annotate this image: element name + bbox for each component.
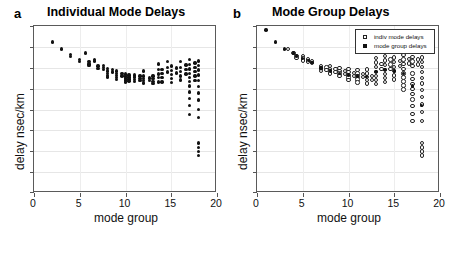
data-point-indiv-mode-delay: [374, 60, 378, 64]
data-point-indiv-mode-delay: [410, 112, 414, 116]
panel-title-b: Mode Group Delays: [272, 6, 389, 19]
data-point-mode-group-delay: [84, 51, 87, 54]
data-point-indiv-mode-delay: [420, 81, 424, 85]
data-point-indiv-mode-delay: [286, 47, 290, 51]
data-point-mode-group-delay: [188, 80, 191, 83]
x-axis-tick-label: 15: [155, 198, 185, 209]
data-point-mode-group-delay: [179, 74, 182, 77]
data-point-mode-group-delay: [188, 84, 191, 87]
data-point-mode-group-delay: [264, 28, 267, 31]
x-axis-tick-label: 0: [241, 198, 271, 209]
data-point-indiv-mode-delay: [420, 55, 424, 59]
data-point-indiv-mode-delay: [410, 59, 414, 63]
panel-letter-b: b: [233, 7, 241, 20]
data-point-mode-group-delay: [142, 69, 145, 72]
x-axis-tick-label: 5: [64, 198, 94, 209]
data-point-mode-group-delay: [133, 80, 136, 83]
data-point-mode-group-delay: [197, 154, 200, 157]
data-point-indiv-mode-delay: [374, 82, 378, 86]
y-axis-tick: [30, 130, 34, 131]
data-point-mode-group-delay: [197, 91, 200, 94]
panel-mode-group-delays: b Mode Group Delays indiv mode delays mo…: [228, 0, 455, 257]
data-point-indiv-mode-delay: [401, 62, 405, 66]
data-point-indiv-mode-delay: [410, 97, 414, 101]
y-axis-tick: [30, 151, 34, 152]
y-axis-title-b: delay nsec/km: [237, 93, 249, 170]
data-point-mode-group-delay: [338, 72, 341, 75]
gridline-horizontal: [257, 151, 438, 152]
data-point-mode-group-delay: [188, 97, 191, 100]
data-point-mode-group-delay: [170, 73, 173, 76]
data-point-mode-group-delay: [69, 55, 72, 58]
data-point-mode-group-delay: [175, 71, 178, 74]
data-point-mode-group-delay: [115, 78, 118, 81]
y-axis-tick: [30, 68, 34, 69]
data-point-indiv-mode-delay: [420, 95, 424, 99]
filled-circle-icon: [359, 44, 371, 47]
y-axis-tick: [253, 130, 257, 131]
y-axis-tick: [253, 172, 257, 173]
x-axis-tick-label: 0: [18, 198, 48, 209]
data-point-mode-group-delay: [197, 79, 200, 82]
figure-container: a Individual Mode Delays mode group dela…: [0, 0, 455, 257]
data-point-indiv-mode-delay: [346, 78, 350, 82]
x-axis-tick-label: 20: [201, 198, 231, 209]
data-point-mode-group-delay: [96, 67, 99, 70]
x-axis-tick-label: 10: [333, 198, 363, 209]
data-point-mode-group-delay: [93, 59, 96, 62]
data-point-mode-group-delay: [274, 40, 277, 43]
data-point-mode-group-delay: [157, 62, 160, 65]
gridline-horizontal: [257, 172, 438, 173]
data-point-mode-group-delay: [60, 47, 63, 50]
data-point-indiv-mode-delay: [392, 55, 396, 59]
y-axis-tick: [253, 110, 257, 111]
data-point-indiv-mode-delay: [420, 153, 424, 157]
data-point-mode-group-delay: [188, 113, 191, 116]
data-point-mode-group-delay: [197, 108, 200, 111]
data-point-mode-group-delay: [170, 69, 173, 72]
data-point-indiv-mode-delay: [410, 104, 414, 108]
x-axis-title-a: mode group: [26, 212, 226, 224]
data-point-indiv-mode-delay: [410, 77, 414, 81]
x-axis-tick-label: 5: [287, 198, 317, 209]
data-point-indiv-mode-delay: [401, 57, 405, 61]
data-point-mode-group-delay: [383, 68, 386, 71]
data-point-indiv-mode-delay: [401, 87, 405, 91]
legend-item-mode-group-delays: mode group delays: [359, 42, 431, 50]
data-point-indiv-mode-delay: [420, 60, 424, 64]
open-circle-icon: [359, 35, 371, 39]
legend-item-indiv-mode-delays: indiv mode delays: [359, 33, 431, 41]
y-axis-tick: [253, 89, 257, 90]
data-point-mode-group-delay: [188, 72, 191, 75]
data-point-mode-group-delay: [188, 63, 191, 66]
data-point-mode-group-delay: [160, 68, 163, 71]
data-point-mode-group-delay: [188, 67, 191, 70]
data-point-mode-group-delay: [197, 59, 200, 62]
data-point-mode-group-delay: [160, 80, 163, 83]
data-point-mode-group-delay: [283, 47, 286, 50]
data-point-indiv-mode-delay: [420, 88, 424, 92]
data-point-mode-group-delay: [160, 72, 163, 75]
data-point-mode-group-delay: [127, 79, 130, 82]
data-point-mode-group-delay: [142, 81, 145, 84]
data-point-mode-group-delay: [170, 77, 173, 80]
legend-label-indiv-mode-delays: indiv mode delays: [374, 34, 424, 40]
panel-title-a: Individual Mode Delays: [47, 6, 185, 19]
y-axis-title-a: delay nsec/km: [14, 93, 26, 170]
data-point-indiv-mode-delay: [410, 119, 414, 123]
data-point-mode-group-delay: [111, 70, 114, 73]
data-point-mode-group-delay: [319, 66, 322, 69]
data-point-indiv-mode-delay: [420, 119, 424, 123]
data-point-indiv-mode-delay: [410, 71, 414, 75]
gridline-vertical: [171, 26, 172, 191]
data-point-mode-group-delay: [197, 73, 200, 76]
data-point-mode-group-delay: [197, 150, 200, 153]
data-point-mode-group-delay: [329, 69, 332, 72]
gridline-horizontal: [34, 172, 215, 173]
data-point-mode-group-delay: [188, 90, 191, 93]
data-point-mode-group-delay: [179, 70, 182, 73]
y-axis-tick: [253, 68, 257, 69]
data-point-mode-group-delay: [179, 60, 182, 63]
data-point-indiv-mode-delay: [410, 64, 414, 68]
gridline-horizontal: [257, 110, 438, 111]
